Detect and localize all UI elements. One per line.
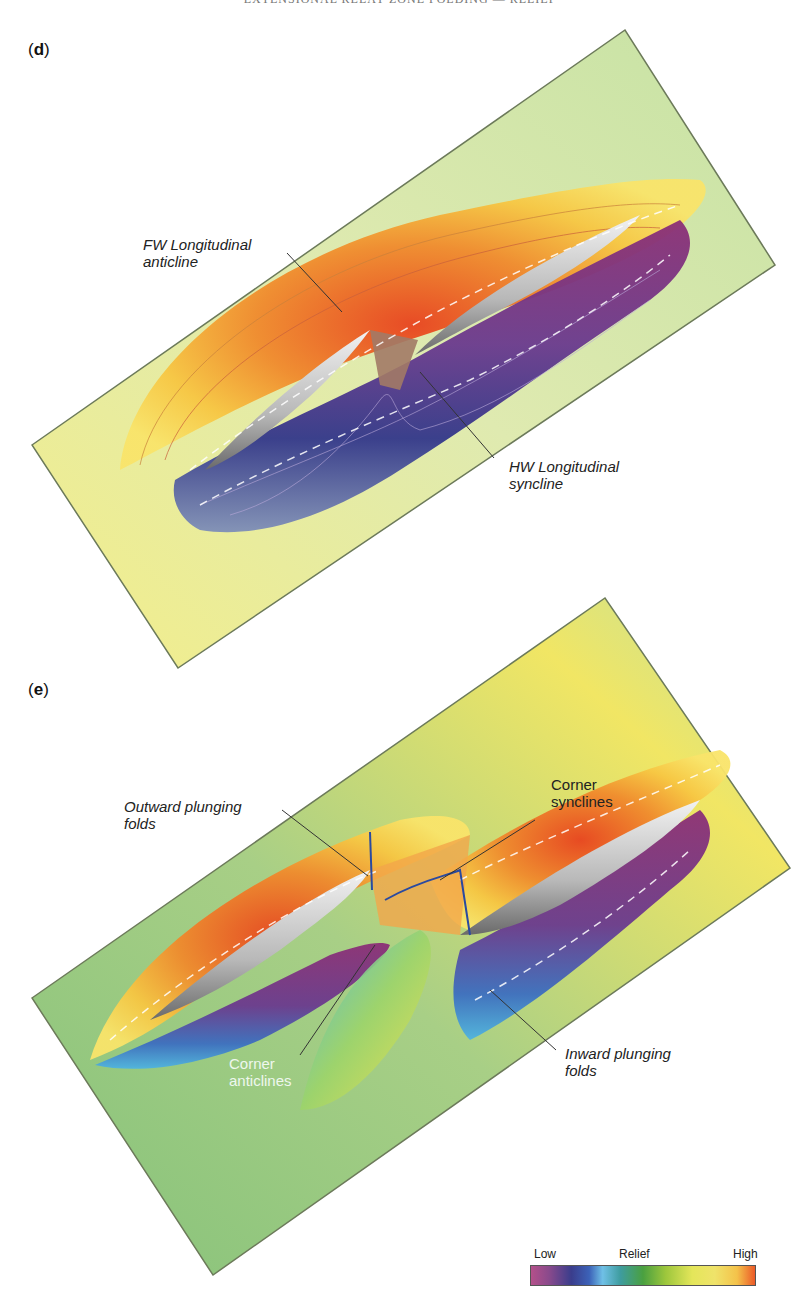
annotation-fw-longitudinal-anticline: FW Longitudinal anticline [143, 236, 251, 270]
legend-title: Relief [619, 1247, 650, 1261]
annotation-hw-longitudinal-syncline: HW Longitudinal syncline [509, 458, 619, 492]
legend-high-label: High [733, 1247, 758, 1261]
annotation-inward-plunging-folds: Inward plunging folds [565, 1045, 671, 1079]
panel-e-block [32, 598, 790, 1275]
diagram-canvas [0, 0, 808, 1300]
annotation-corner-anticlines: Corner anticlines [229, 1055, 292, 1089]
annotation-outward-plunging-folds: Outward plunging folds [124, 798, 242, 832]
panel-d-block [32, 30, 775, 668]
legend-low-label: Low [534, 1247, 556, 1261]
relief-color-scale [530, 1265, 756, 1286]
annotation-corner-synclines: Corner synclines [551, 776, 613, 810]
